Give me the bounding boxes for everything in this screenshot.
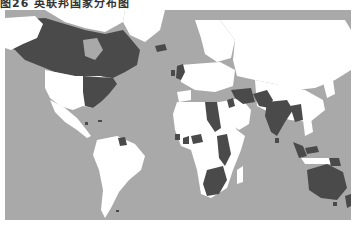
sri-lanka xyxy=(275,138,279,143)
falklands xyxy=(116,210,119,212)
belize xyxy=(85,122,88,125)
map-caption: 图26 英联邦国家分布图 xyxy=(0,0,130,6)
sierra-leone xyxy=(175,134,180,140)
papua-new-guinea xyxy=(329,158,341,166)
ireland xyxy=(171,70,175,76)
jamaica xyxy=(98,120,102,122)
tasmania xyxy=(333,202,337,206)
iberia xyxy=(177,90,191,102)
map-svg xyxy=(5,10,351,220)
world-map xyxy=(5,10,351,220)
